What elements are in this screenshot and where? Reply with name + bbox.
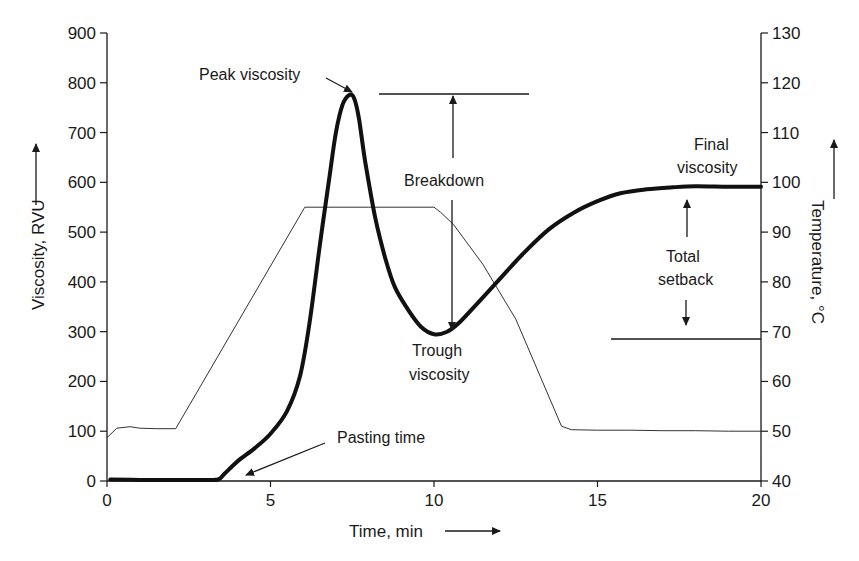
left-y-tick-label: 600 xyxy=(68,173,96,192)
right-y-tick-label: 60 xyxy=(772,372,791,391)
right-y-tick-label: 50 xyxy=(772,422,791,441)
peak-arrow-icon xyxy=(326,78,352,92)
left-y-tick-label: 400 xyxy=(68,273,96,292)
right-y-tick-label: 110 xyxy=(772,124,799,143)
rva-pasting-chart: 05101520 0100200300400500600700800900 40… xyxy=(0,0,859,561)
trough-label-line1: Trough xyxy=(412,342,462,359)
setback-label-line1: Total xyxy=(666,248,700,265)
trough-label-line2: viscosity xyxy=(409,366,469,383)
right-y-axis-ticks: 405060708090100110120130 xyxy=(761,24,800,491)
annotation-pasting-time: Pasting time xyxy=(246,429,425,475)
annotation-total-setback: Total setback xyxy=(611,200,761,339)
left-y-tick-label: 100 xyxy=(68,422,96,441)
peak-viscosity-label: Peak viscosity xyxy=(199,66,300,83)
right-y-axis-title: Temperature, °C xyxy=(808,200,827,324)
left-y-axis-ticks: 0100200300400500600700800900 xyxy=(68,24,107,491)
left-y-tick-label: 700 xyxy=(68,124,96,143)
x-tick-label: 5 xyxy=(266,491,275,510)
x-tick-label: 0 xyxy=(102,491,111,510)
axes xyxy=(107,33,761,481)
annotation-breakdown: Breakdown xyxy=(379,94,529,330)
setback-label-line2: setback xyxy=(658,271,714,288)
right-y-tick-label: 40 xyxy=(772,472,791,491)
right-y-tick-label: 130 xyxy=(772,24,800,43)
final-label-line1: Final xyxy=(694,136,729,153)
x-axis-ticks: 05101520 xyxy=(102,481,770,510)
x-tick-label: 10 xyxy=(425,491,444,510)
annotation-trough-viscosity: Trough viscosity xyxy=(409,342,469,383)
left-y-tick-label: 500 xyxy=(68,223,96,242)
right-y-tick-label: 100 xyxy=(772,173,800,192)
left-y-tick-label: 0 xyxy=(87,472,96,491)
right-y-tick-label: 70 xyxy=(772,323,791,342)
left-y-axis-title: Viscosity, RVU xyxy=(29,199,48,310)
right-y-tick-label: 90 xyxy=(772,223,791,242)
x-tick-label: 20 xyxy=(752,491,771,510)
left-y-tick-label: 800 xyxy=(68,74,96,93)
x-axis-title: Time, min xyxy=(349,522,423,541)
breakdown-label: Breakdown xyxy=(404,172,484,189)
temperature-line xyxy=(107,207,761,438)
annotation-peak-viscosity: Peak viscosity xyxy=(199,66,352,92)
right-y-tick-label: 80 xyxy=(772,273,791,292)
right-y-tick-label: 120 xyxy=(772,74,800,93)
left-y-tick-label: 300 xyxy=(68,323,96,342)
left-y-tick-label: 200 xyxy=(68,372,96,391)
final-label-line2: viscosity xyxy=(677,159,737,176)
pasting-time-label: Pasting time xyxy=(337,429,425,446)
left-y-tick-label: 900 xyxy=(68,24,96,43)
x-tick-label: 15 xyxy=(588,491,607,510)
annotation-final-viscosity: Final viscosity xyxy=(677,136,737,176)
